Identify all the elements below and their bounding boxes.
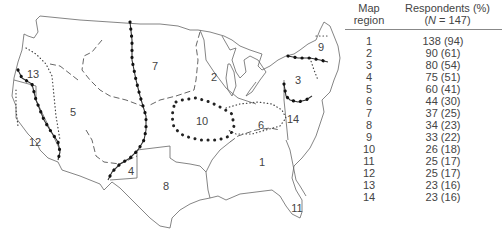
cell-respondents: 23 (16) xyxy=(393,191,493,203)
cell-respondents: 33 (22) xyxy=(393,131,493,143)
table-header: Map region Respondents (%) (N = 147) xyxy=(345,2,502,26)
cell-respondents: 60 (41) xyxy=(393,83,493,95)
region-label: 14 xyxy=(287,113,299,125)
header-text: = 147) xyxy=(436,14,471,26)
cell-respondents: 80 (54) xyxy=(393,59,493,71)
boundary xyxy=(286,140,306,196)
beaded-boundary-east-dots xyxy=(284,84,312,102)
header-rule xyxy=(345,29,502,30)
region-label: 12 xyxy=(29,136,41,148)
cell-respondents: 34 (23) xyxy=(393,119,493,131)
region-label: 11 xyxy=(291,202,302,214)
table-row: 475 (51) xyxy=(345,71,502,83)
region-label: 8 xyxy=(163,180,169,192)
table-row: 933 (22) xyxy=(345,131,502,143)
cell-region: 8 xyxy=(345,119,393,131)
cell-respondents: 25 (17) xyxy=(393,167,493,179)
cell-region: 6 xyxy=(345,95,393,107)
us-region-map: 1 2 3 4 5 6 7 8 9 10 11 12 13 14 xyxy=(0,0,345,235)
header-text: N xyxy=(428,14,436,26)
table-row: 1423 (16) xyxy=(345,191,502,203)
header-n: (N = 147) xyxy=(393,14,502,26)
table-row: 737 (25) xyxy=(345,107,502,119)
table-row: 644 (30) xyxy=(345,95,502,107)
beaded-boundary-northeast-dots xyxy=(288,56,328,62)
region-label: 3 xyxy=(295,74,301,86)
cell-region: 11 xyxy=(345,155,393,167)
table-row: 1138 (94) xyxy=(345,35,502,47)
region-label: 2 xyxy=(211,71,217,83)
header-text: Respondents (%) xyxy=(393,2,502,14)
cell-respondents: 44 (30) xyxy=(393,95,493,107)
table-row: 1026 (18) xyxy=(345,143,502,155)
cell-respondents: 75 (51) xyxy=(393,71,493,83)
cell-respondents: 90 (61) xyxy=(393,47,493,59)
region-label: 4 xyxy=(128,165,134,177)
table-body: 1138 (94) 290 (61) 380 (54) 475 (51) 560… xyxy=(345,35,502,203)
cell-respondents: 26 (18) xyxy=(393,143,493,155)
header-text: Map xyxy=(345,2,393,14)
region-13-boundary xyxy=(26,48,60,140)
lake-michigan xyxy=(226,64,236,96)
table-row: 560 (41) xyxy=(345,83,502,95)
cell-region: 1 xyxy=(345,35,393,47)
cell-respondents: 25 (17) xyxy=(393,155,493,167)
boundary xyxy=(206,142,230,172)
cell-region: 10 xyxy=(345,143,393,155)
table-row: 1323 (16) xyxy=(345,179,502,191)
cell-respondents: 37 (25) xyxy=(393,107,493,119)
region-label: 10 xyxy=(196,115,208,127)
table-row: 1225 (17) xyxy=(345,167,502,179)
table-row: 834 (23) xyxy=(345,119,502,131)
region-boundary-dashed xyxy=(230,128,280,142)
cell-region: 12 xyxy=(345,167,393,179)
header-respondents: Respondents (%) (N = 147) xyxy=(393,2,502,26)
region-label: 9 xyxy=(318,41,324,53)
cell-region: 2 xyxy=(345,47,393,59)
header-map-region: Map region xyxy=(345,2,393,26)
region-label: 5 xyxy=(70,106,76,118)
cell-region: 7 xyxy=(345,107,393,119)
region-label: 1 xyxy=(259,156,265,168)
header-text: region xyxy=(345,14,393,26)
region-label: 13 xyxy=(27,68,39,80)
cell-region: 4 xyxy=(345,71,393,83)
region-label: 6 xyxy=(258,119,264,131)
table-row: 1125 (17) xyxy=(345,155,502,167)
great-lakes-outline xyxy=(222,36,266,96)
region-boundary-dashed xyxy=(50,64,78,80)
table-row: 290 (61) xyxy=(345,47,502,59)
cell-region: 13 xyxy=(345,179,393,191)
region-labels: 1 2 3 4 5 6 7 8 9 10 11 12 13 14 xyxy=(27,41,324,214)
cell-region: 9 xyxy=(345,131,393,143)
cell-region: 3 xyxy=(345,59,393,71)
respondents-table: Map region Respondents (%) (N = 147) 113… xyxy=(345,2,502,203)
region-9-inner xyxy=(310,58,318,80)
cell-respondents: 23 (16) xyxy=(393,179,493,191)
table-row: 380 (54) xyxy=(345,59,502,71)
boundary xyxy=(137,146,210,198)
region-label: 7 xyxy=(152,60,158,72)
cell-region: 5 xyxy=(345,83,393,95)
beaded-boundary-central xyxy=(108,22,146,180)
beaded-boundary-central-dots xyxy=(108,22,146,180)
cell-region: 14 xyxy=(345,191,393,203)
cell-respondents: 138 (94) xyxy=(393,35,493,47)
